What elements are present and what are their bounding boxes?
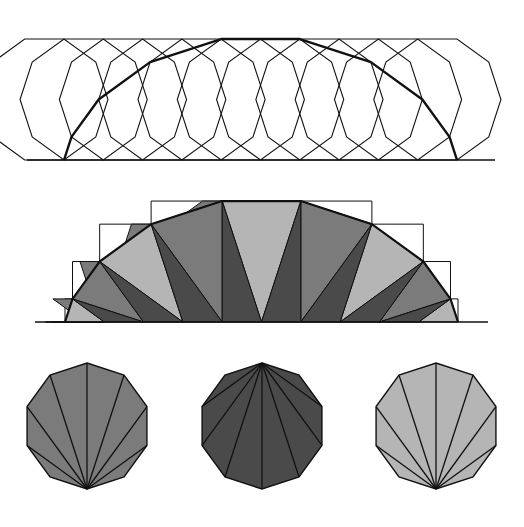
decagon-outline: [138, 39, 265, 160]
decagon-outline: [177, 39, 304, 160]
decagon-outline: [256, 39, 383, 160]
decagon-outline: [20, 39, 147, 160]
decagon-outline: [0, 39, 108, 160]
rolling-decagon-figure: [0, 0, 524, 527]
rolling-decagon-panel: [0, 39, 501, 160]
triangulated-decagons-panel: [27, 363, 496, 489]
unrolled-fan-panel: [35, 201, 488, 322]
decagon-outline: [374, 39, 501, 160]
vertex-path: [64, 39, 457, 160]
decagon-outline: [217, 39, 344, 160]
